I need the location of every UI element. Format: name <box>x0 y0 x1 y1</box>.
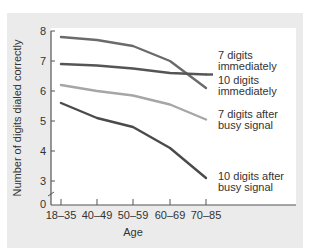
y-tick-label: 7 <box>40 55 46 67</box>
series-label: immediately <box>218 85 277 97</box>
series-label: busy signal <box>218 119 273 131</box>
y-tick-label: 3 <box>40 175 46 187</box>
x-tick-label: 60–69 <box>155 209 186 221</box>
y-tick-label: 6 <box>40 85 46 97</box>
series-label: immediately <box>218 60 277 72</box>
y-axis-title: Number of digits dialed correctly <box>11 39 23 197</box>
y-tick-label: 5 <box>40 115 46 127</box>
line-chart: 876543018–3540–4950–5960–6970–85AgeNumbe… <box>0 0 316 248</box>
x-axis-title: Age <box>123 226 143 238</box>
x-tick-label: 70–85 <box>191 209 222 221</box>
x-tick-label: 18–35 <box>46 209 77 221</box>
x-tick-label: 40–49 <box>82 209 113 221</box>
y-tick-label: 4 <box>40 145 46 157</box>
y-tick-label: 8 <box>40 25 46 37</box>
series-label: busy signal <box>218 181 273 193</box>
x-tick-label: 50–59 <box>118 209 149 221</box>
